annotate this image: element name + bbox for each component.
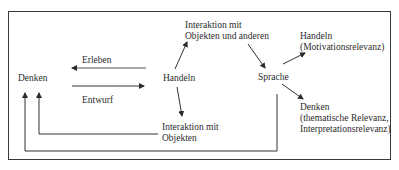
- handeln-to-interaktion-anderen-arrow: [175, 42, 187, 69]
- node-interaktion-objekten-anderen: Interaktion mit Objekten und anderen: [185, 20, 269, 42]
- sprache-to-denken-arrow: [282, 84, 303, 99]
- node-denken-thematische-relevanz: Denken (thematische Relevanz, Interpreta…: [300, 102, 391, 135]
- node-interaktion-objekten: Interaktion mit Objekten: [162, 122, 219, 144]
- edge-label-erleben: Erleben: [82, 55, 112, 66]
- sprache-to-handeln-arrow: [283, 53, 305, 64]
- edge-label-entwurf: Entwurf: [82, 95, 113, 106]
- handeln-to-interaktion-objekten-arrow: [177, 87, 182, 116]
- interaktion-anderen-to-sprache-arrow: [248, 44, 265, 68]
- node-denken: Denken: [18, 73, 48, 84]
- node-handeln: Handeln: [163, 73, 195, 84]
- feedback-sprache-to-denken: [25, 93, 277, 151]
- node-handeln-motivationsrelevanz: Handeln (Motivationsrelevanz): [300, 31, 384, 53]
- node-sprache: Sprache: [258, 72, 289, 83]
